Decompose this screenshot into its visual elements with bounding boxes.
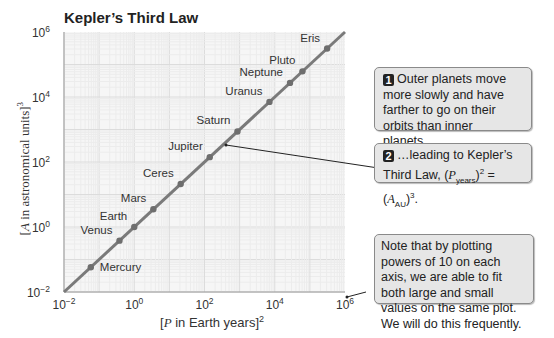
tick-label: 100 xyxy=(125,296,143,312)
tick-label: 106 xyxy=(336,296,354,312)
callout-outer-planets: 1Outer planets move more slowly and have… xyxy=(374,67,532,131)
data-point-uranus xyxy=(266,99,272,105)
point-label-pluto: Pluto xyxy=(269,54,295,66)
tick-label: 102 xyxy=(32,154,50,170)
point-label-uranus: Uranus xyxy=(225,85,262,97)
data-point-mars xyxy=(150,206,156,212)
point-label-venus: Venus xyxy=(81,224,113,236)
data-point-earth xyxy=(131,224,137,230)
data-point-saturn xyxy=(234,128,240,134)
callout-log-scale-note: Note that by plotting powers of 10 on ea… xyxy=(374,234,534,304)
point-label-jupiter: Jupiter xyxy=(168,140,203,152)
data-point-venus xyxy=(116,237,122,243)
tick-label: 104 xyxy=(266,296,284,312)
tick-label: 10−2 xyxy=(27,284,50,300)
point-label-mercury: Mercury xyxy=(100,261,142,273)
step-badge-1: 1 xyxy=(383,74,394,86)
point-label-earth: Earth xyxy=(100,210,128,222)
point-label-eris: Eris xyxy=(300,32,320,44)
step-badge-2: 2 xyxy=(383,150,394,162)
point-label-mars: Mars xyxy=(121,192,147,204)
x-axis-label: [P in Earth years]2 xyxy=(160,314,264,331)
tick-label: 10−2 xyxy=(52,296,75,312)
point-label-saturn: Saturn xyxy=(197,114,231,126)
tick-label: 102 xyxy=(195,296,213,312)
tick-label: 106 xyxy=(32,24,50,40)
data-point-pluto xyxy=(299,68,305,74)
point-label-neptune: Neptune xyxy=(240,66,283,78)
tick-label: 100 xyxy=(32,219,50,235)
data-point-mercury xyxy=(88,264,94,270)
callout-keplers-law: 2…leading to Kepler’s Third Law, (Pyears… xyxy=(374,143,532,183)
data-point-eris xyxy=(324,45,330,51)
point-label-ceres: Ceres xyxy=(143,167,174,179)
data-point-ceres xyxy=(177,181,183,187)
tick-label: 104 xyxy=(32,89,50,105)
y-axis-label: [A in astronomical units]3 xyxy=(15,89,32,249)
data-point-jupiter xyxy=(207,154,213,160)
data-point-neptune xyxy=(287,80,293,86)
